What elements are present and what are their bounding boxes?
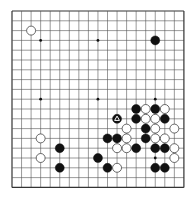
black-stone [132,114,141,123]
black-stone [113,134,122,143]
black-stone [160,163,169,172]
white-stone [170,154,179,163]
star-point [154,98,157,101]
black-stone [132,105,141,114]
star-point [97,98,100,101]
black-stone [55,163,64,172]
black-stone [151,163,160,172]
white-stone [170,124,179,133]
black-stone [103,134,112,143]
white-stone [151,134,160,143]
white-stone [151,124,160,133]
star-point [39,39,42,42]
go-board[interactable] [0,0,194,198]
star-point [39,98,42,101]
white-stone [36,154,45,163]
white-stone [122,144,131,153]
white-stone [141,105,150,114]
white-stone [151,114,160,123]
black-stone [93,154,102,163]
white-stone [160,105,169,114]
black-stone [103,163,112,172]
black-stone [113,114,122,123]
black-stone [132,144,141,153]
white-stone [170,144,179,153]
white-stone [160,134,169,143]
white-stone [113,163,122,172]
white-stone [36,134,45,143]
black-stone [151,144,160,153]
black-stone [151,105,160,114]
white-stone [122,124,131,133]
black-stone [151,36,160,45]
white-stone [113,144,122,153]
black-stone [55,144,64,153]
black-stone [160,144,169,153]
white-stone [122,134,131,143]
star-point [97,39,100,42]
black-stone [141,134,150,143]
white-stone [27,26,36,35]
black-stone [141,124,150,133]
black-stone [160,114,169,123]
star-point [154,157,157,160]
white-stone [141,114,150,123]
